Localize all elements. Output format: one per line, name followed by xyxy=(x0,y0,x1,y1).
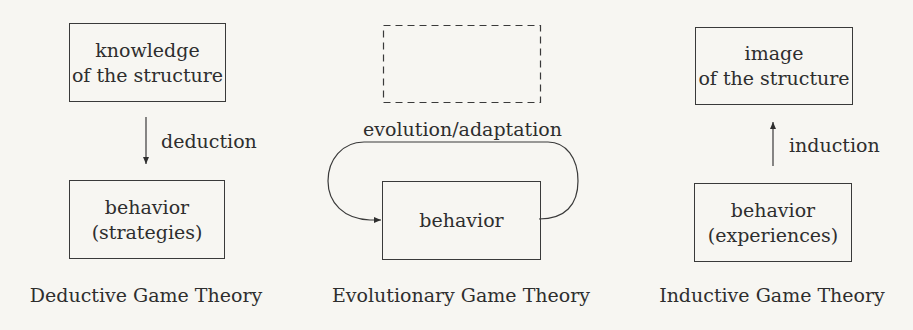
deductive-caption: Deductive Game Theory xyxy=(16,283,276,307)
inductive-caption: Inductive Game Theory xyxy=(646,283,898,307)
box-line: image xyxy=(745,41,804,66)
evolution-adaptation-label: evolution/adaptation xyxy=(350,117,575,141)
behavior-strategies-box: behavior (strategies) xyxy=(69,180,225,259)
box-line: of the structure xyxy=(698,66,849,91)
box-line: (experiences) xyxy=(708,223,838,248)
behavior-experiences-box: behavior (experiences) xyxy=(694,183,852,262)
box-line: behavior xyxy=(731,198,815,223)
box-line: behavior xyxy=(105,195,189,220)
box-line: knowledge xyxy=(95,38,199,63)
deduction-label: deduction xyxy=(161,129,257,153)
dashed-empty-box xyxy=(384,26,541,103)
behavior-box: behavior xyxy=(382,181,541,260)
image-of-structure-box: image of the structure xyxy=(695,27,853,105)
knowledge-of-structure-box: knowledge of the structure xyxy=(69,23,226,102)
evolutionary-caption: Evolutionary Game Theory xyxy=(316,283,606,307)
box-line: of the structure xyxy=(72,63,223,88)
box-line: behavior xyxy=(419,208,503,233)
box-line: (strategies) xyxy=(92,220,203,245)
induction-label: induction xyxy=(789,133,880,157)
